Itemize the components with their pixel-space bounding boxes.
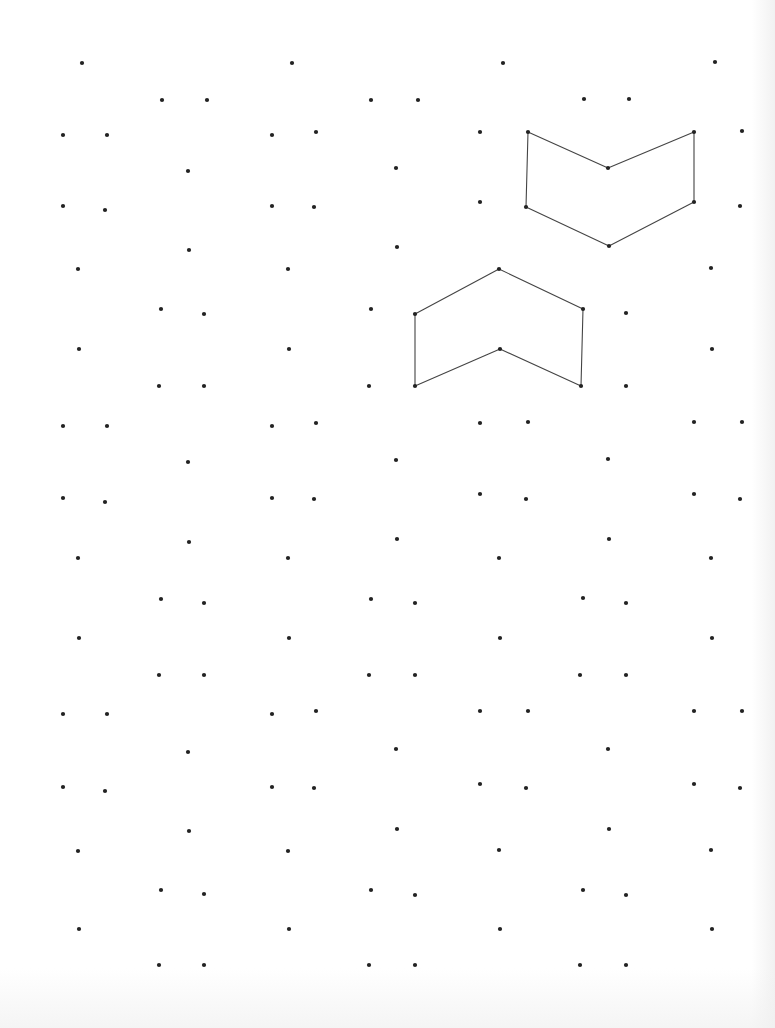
grid-dot[interactable] bbox=[314, 130, 318, 134]
grid-dot[interactable] bbox=[186, 750, 190, 754]
grid-dot[interactable] bbox=[709, 848, 713, 852]
grid-dot[interactable] bbox=[367, 673, 371, 677]
grid-dot[interactable] bbox=[740, 129, 744, 133]
grid-dot[interactable] bbox=[77, 347, 81, 351]
grid-dot[interactable] bbox=[61, 424, 65, 428]
grid-dot[interactable] bbox=[478, 421, 482, 425]
grid-dot[interactable] bbox=[186, 460, 190, 464]
grid-dot[interactable] bbox=[157, 384, 161, 388]
grid-dot[interactable] bbox=[369, 597, 373, 601]
grid-dot[interactable] bbox=[501, 61, 505, 65]
grid-dot[interactable] bbox=[312, 786, 316, 790]
grid-dot[interactable] bbox=[498, 636, 502, 640]
grid-dot[interactable] bbox=[413, 601, 417, 605]
grid-dot[interactable] bbox=[738, 786, 742, 790]
grid-dot[interactable] bbox=[202, 963, 206, 967]
grid-dot[interactable] bbox=[367, 384, 371, 388]
grid-dot[interactable] bbox=[713, 60, 717, 64]
grid-dot[interactable] bbox=[624, 384, 628, 388]
grid-dot[interactable] bbox=[61, 785, 65, 789]
grid-dot[interactable] bbox=[413, 673, 417, 677]
dot-grid-canvas[interactable] bbox=[0, 0, 775, 1028]
grid-dot[interactable] bbox=[738, 497, 742, 501]
grid-dot[interactable] bbox=[202, 312, 206, 316]
grid-dot[interactable] bbox=[103, 789, 107, 793]
grid-dot[interactable] bbox=[287, 927, 291, 931]
grid-dot[interactable] bbox=[76, 556, 80, 560]
grid-dot[interactable] bbox=[607, 537, 611, 541]
grid-dot[interactable] bbox=[186, 169, 190, 173]
grid-dot[interactable] bbox=[692, 492, 696, 496]
grid-dot[interactable] bbox=[312, 205, 316, 209]
grid-dot[interactable] bbox=[607, 827, 611, 831]
grid-dot[interactable] bbox=[286, 267, 290, 271]
grid-dot[interactable] bbox=[606, 457, 610, 461]
grid-dot[interactable] bbox=[709, 266, 713, 270]
grid-dot[interactable] bbox=[105, 424, 109, 428]
grid-dot[interactable] bbox=[77, 927, 81, 931]
grid-dot[interactable] bbox=[270, 785, 274, 789]
grid-dot[interactable] bbox=[270, 424, 274, 428]
grid-dot[interactable] bbox=[105, 133, 109, 137]
grid-dot[interactable] bbox=[413, 963, 417, 967]
grid-dot[interactable] bbox=[287, 636, 291, 640]
grid-dot[interactable] bbox=[187, 829, 191, 833]
grid-dot[interactable] bbox=[105, 712, 109, 716]
grid-dot[interactable] bbox=[524, 497, 528, 501]
grid-dot[interactable] bbox=[157, 673, 161, 677]
grid-dot[interactable] bbox=[692, 782, 696, 786]
grid-dot[interactable] bbox=[581, 888, 585, 892]
grid-dot[interactable] bbox=[606, 747, 610, 751]
grid-dot[interactable] bbox=[478, 709, 482, 713]
grid-dot[interactable] bbox=[395, 537, 399, 541]
grid-dot[interactable] bbox=[77, 636, 81, 640]
grid-dot[interactable] bbox=[624, 673, 628, 677]
grid-dot[interactable] bbox=[103, 500, 107, 504]
grid-dot[interactable] bbox=[369, 98, 373, 102]
grid-dot[interactable] bbox=[202, 384, 206, 388]
grid-dot[interactable] bbox=[394, 458, 398, 462]
grid-dot[interactable] bbox=[202, 892, 206, 896]
grid-dot[interactable] bbox=[270, 133, 274, 137]
grid-dot[interactable] bbox=[286, 849, 290, 853]
grid-dot[interactable] bbox=[709, 556, 713, 560]
grid-dot[interactable] bbox=[312, 497, 316, 501]
grid-dot[interactable] bbox=[524, 786, 528, 790]
grid-dot[interactable] bbox=[314, 421, 318, 425]
grid-dot[interactable] bbox=[205, 98, 209, 102]
grid-dot[interactable] bbox=[80, 61, 84, 65]
grid-dot[interactable] bbox=[103, 208, 107, 212]
grid-dot[interactable] bbox=[76, 849, 80, 853]
grid-dot[interactable] bbox=[740, 420, 744, 424]
grid-dot[interactable] bbox=[159, 307, 163, 311]
grid-dot[interactable] bbox=[395, 245, 399, 249]
grid-dot[interactable] bbox=[159, 888, 163, 892]
grid-dot[interactable] bbox=[581, 596, 585, 600]
grid-dot[interactable] bbox=[578, 673, 582, 677]
grid-dot[interactable] bbox=[290, 61, 294, 65]
grid-dot[interactable] bbox=[526, 709, 530, 713]
grid-dot[interactable] bbox=[367, 963, 371, 967]
grid-dot[interactable] bbox=[692, 420, 696, 424]
grid-dot[interactable] bbox=[624, 893, 628, 897]
grid-dot[interactable] bbox=[478, 782, 482, 786]
grid-dot[interactable] bbox=[497, 556, 501, 560]
grid-dot[interactable] bbox=[710, 347, 714, 351]
grid-dot[interactable] bbox=[159, 597, 163, 601]
grid-dot[interactable] bbox=[624, 601, 628, 605]
grid-dot[interactable] bbox=[478, 130, 482, 134]
grid-dot[interactable] bbox=[394, 747, 398, 751]
grid-dot[interactable] bbox=[624, 311, 628, 315]
grid-dot[interactable] bbox=[187, 540, 191, 544]
grid-dot[interactable] bbox=[286, 556, 290, 560]
grid-dot[interactable] bbox=[157, 963, 161, 967]
grid-dot[interactable] bbox=[202, 601, 206, 605]
grid-dot[interactable] bbox=[202, 673, 206, 677]
grid-dot[interactable] bbox=[369, 888, 373, 892]
grid-dot[interactable] bbox=[526, 420, 530, 424]
grid-dot[interactable] bbox=[624, 963, 628, 967]
grid-dot[interactable] bbox=[287, 347, 291, 351]
grid-dot[interactable] bbox=[497, 848, 501, 852]
grid-dot[interactable] bbox=[413, 893, 417, 897]
grid-dot[interactable] bbox=[61, 496, 65, 500]
